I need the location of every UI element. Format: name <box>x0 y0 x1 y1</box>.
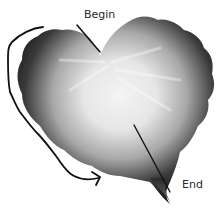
begin-label: Begin <box>84 9 115 20</box>
leaf-diagram: Begin End <box>0 0 219 211</box>
end-label: End <box>182 179 203 190</box>
leaf-shape <box>18 17 215 205</box>
